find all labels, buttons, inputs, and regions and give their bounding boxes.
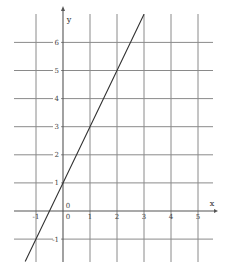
y-axis-arrow-icon	[61, 6, 65, 11]
y-axis-label: y	[66, 15, 72, 24]
y-tick-label: 3	[55, 123, 59, 131]
y-tick-label: 5	[55, 67, 59, 75]
y-tick-label: 4	[55, 95, 60, 103]
x-tick-label: -1	[33, 213, 40, 221]
x-axis-arrow-icon	[214, 209, 218, 213]
y-tick-label: 2	[55, 151, 59, 159]
tick-labels: xy-1012345-11234560	[33, 15, 215, 244]
x-tick-label: 2	[115, 213, 119, 221]
axes	[14, 6, 218, 262]
data-series	[25, 14, 144, 261]
y-tick-label: -1	[52, 236, 59, 244]
line-series	[25, 14, 144, 261]
graph-plot: xy-1012345-11234560	[0, 0, 232, 279]
y-tick-label: 6	[55, 39, 60, 47]
x-tick-label: 0	[66, 213, 70, 221]
x-tick-label: 3	[142, 213, 146, 221]
x-tick-label: 1	[88, 213, 92, 221]
grid-lines	[14, 14, 213, 262]
x-tick-label: 4	[169, 213, 174, 221]
origin-label: 0	[66, 202, 70, 210]
x-axis-label: x	[210, 199, 215, 208]
y-tick-label: 1	[55, 179, 59, 187]
x-tick-label: 5	[196, 213, 200, 221]
